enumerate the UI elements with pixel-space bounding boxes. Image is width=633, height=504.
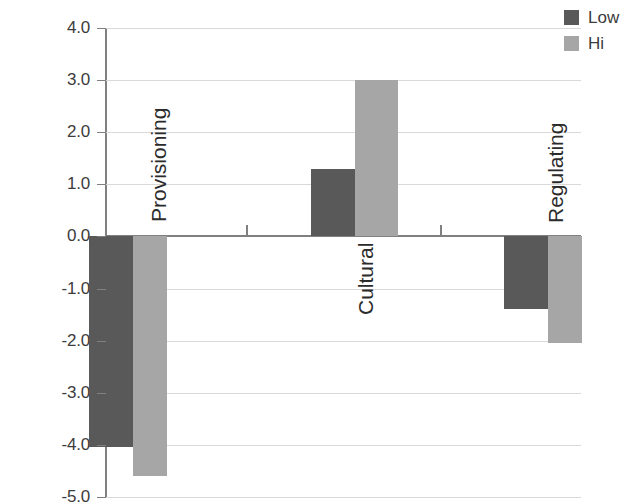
category-label-provisioning: Provisioning: [148, 108, 169, 222]
y-axis-tick-label: -4.0: [36, 436, 90, 453]
legend: LowHi: [564, 4, 633, 56]
y-axis-tick: [97, 497, 106, 498]
y-axis-tick-label: 2.0: [36, 123, 90, 140]
y-axis-tick: [97, 289, 106, 290]
y-axis-tick: [97, 393, 106, 394]
y-axis-tick-label: -5.0: [36, 488, 90, 504]
y-axis-tick: [97, 80, 106, 81]
y-axis-tick: [97, 341, 106, 342]
legend-item-hi[interactable]: Hi: [564, 30, 633, 56]
x-axis-tick: [440, 225, 442, 236]
y-axis-tick: [97, 28, 106, 29]
y-axis-labels: 4.03.02.01.00.0-1.0-2.0-3.0-4.0-5.0: [34, 0, 90, 504]
legend-label: Low: [588, 9, 619, 26]
y-axis-tick-label: -2.0: [36, 332, 90, 349]
gridline: [106, 132, 581, 133]
legend-swatch-low: [564, 10, 579, 25]
y-axis-tick-label: 4.0: [36, 19, 90, 36]
y-axis-tick-label: -1.0: [36, 280, 90, 297]
gridline: [106, 28, 581, 29]
bar-cultural-hi: [355, 80, 398, 236]
y-axis-tick: [97, 445, 106, 446]
bar-provisioning-hi: [133, 236, 167, 476]
gridline: [106, 80, 581, 81]
legend-item-low[interactable]: Low: [564, 4, 633, 30]
y-axis-tick-label: 3.0: [36, 71, 90, 88]
legend-label: Hi: [588, 35, 604, 52]
gridline: [106, 393, 581, 394]
bar-chart: 4.03.02.01.00.0-1.0-2.0-3.0-4.0-5.0 Prov…: [0, 0, 633, 504]
plot-area: [106, 28, 581, 497]
y-axis-tick: [97, 184, 106, 185]
gridline: [106, 341, 581, 342]
category-label-cultural: Cultural: [355, 243, 376, 315]
bar-regulating-hi: [548, 236, 582, 343]
bar-provisioning-low: [89, 236, 133, 447]
gridline: [106, 445, 581, 446]
y-axis-tick-label: 1.0: [36, 175, 90, 192]
gridline: [106, 497, 581, 498]
y-axis-tick: [97, 132, 106, 133]
y-axis-tick-label: 0.0: [36, 227, 90, 244]
bar-regulating-low: [504, 236, 548, 309]
y-axis-tick-label: -3.0: [36, 384, 90, 401]
bar-cultural-low: [311, 169, 355, 237]
x-axis-tick: [246, 225, 248, 236]
legend-swatch-hi: [564, 36, 579, 51]
y-axis-tick: [97, 236, 106, 237]
category-label-regulating: Regulating: [545, 123, 566, 223]
